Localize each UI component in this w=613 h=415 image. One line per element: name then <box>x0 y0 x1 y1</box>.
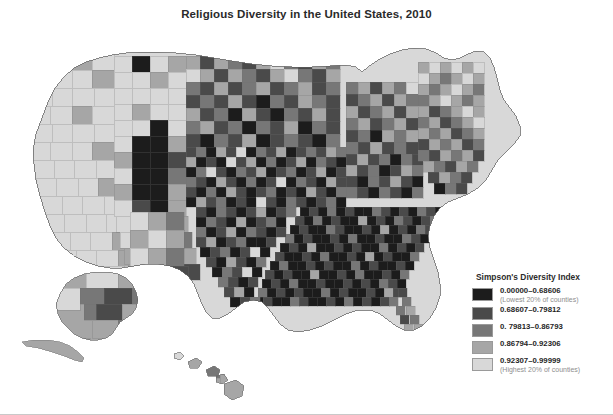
legend-swatch-3 <box>472 324 493 337</box>
legend-range-1: 0.00000–0.68606 <box>500 287 579 296</box>
legend-range-5: 0.92307–0.99999 <box>500 357 580 366</box>
legend-entry-4[interactable]: 0.86794–0.92306 <box>472 340 612 355</box>
legend-note-5: (Highest 20% of counties) <box>500 366 580 374</box>
legend-swatch-5 <box>472 358 493 371</box>
legend-entry-1[interactable]: 0.00000–0.68606 (Lowest 20% of counties) <box>472 287 612 304</box>
legend-swatch-2 <box>472 307 493 320</box>
legend-swatch-1 <box>472 288 493 301</box>
map-legend: Simpson's Diversity Index 0.00000–0.6860… <box>472 272 612 376</box>
map-figure: Religious Diversity in the United States… <box>0 0 613 415</box>
legend-text-5: 0.92307–0.99999 (Highest 20% of counties… <box>500 357 580 374</box>
hawaii-inset-counties <box>165 347 255 407</box>
legend-range-4: 0.86794–0.92306 <box>500 340 561 349</box>
legend-note-1: (Lowest 20% of counties) <box>500 296 579 304</box>
legend-text-2: 0.68607–0.79812 <box>500 306 561 315</box>
legend-text-1: 0.00000–0.68606 (Lowest 20% of counties) <box>500 287 579 304</box>
legend-swatch-4 <box>472 341 493 354</box>
legend-range-2: 0.68607–0.79812 <box>500 306 561 315</box>
page-title: Religious Diversity in the United States… <box>0 8 613 20</box>
legend-text-4: 0.86794–0.92306 <box>500 340 561 349</box>
alaska-inset-counties <box>0 262 200 382</box>
legend-entry-2[interactable]: 0.68607–0.79812 <box>472 306 612 321</box>
legend-title: Simpson's Diversity Index <box>476 272 612 282</box>
legend-entry-3[interactable]: 0. 79813–0.86793 <box>472 323 612 338</box>
legend-range-3: 0. 79813–0.86793 <box>500 323 563 332</box>
legend-entry-5[interactable]: 0.92307–0.99999 (Highest 20% of counties… <box>472 357 612 374</box>
legend-text-3: 0. 79813–0.86793 <box>500 323 563 332</box>
